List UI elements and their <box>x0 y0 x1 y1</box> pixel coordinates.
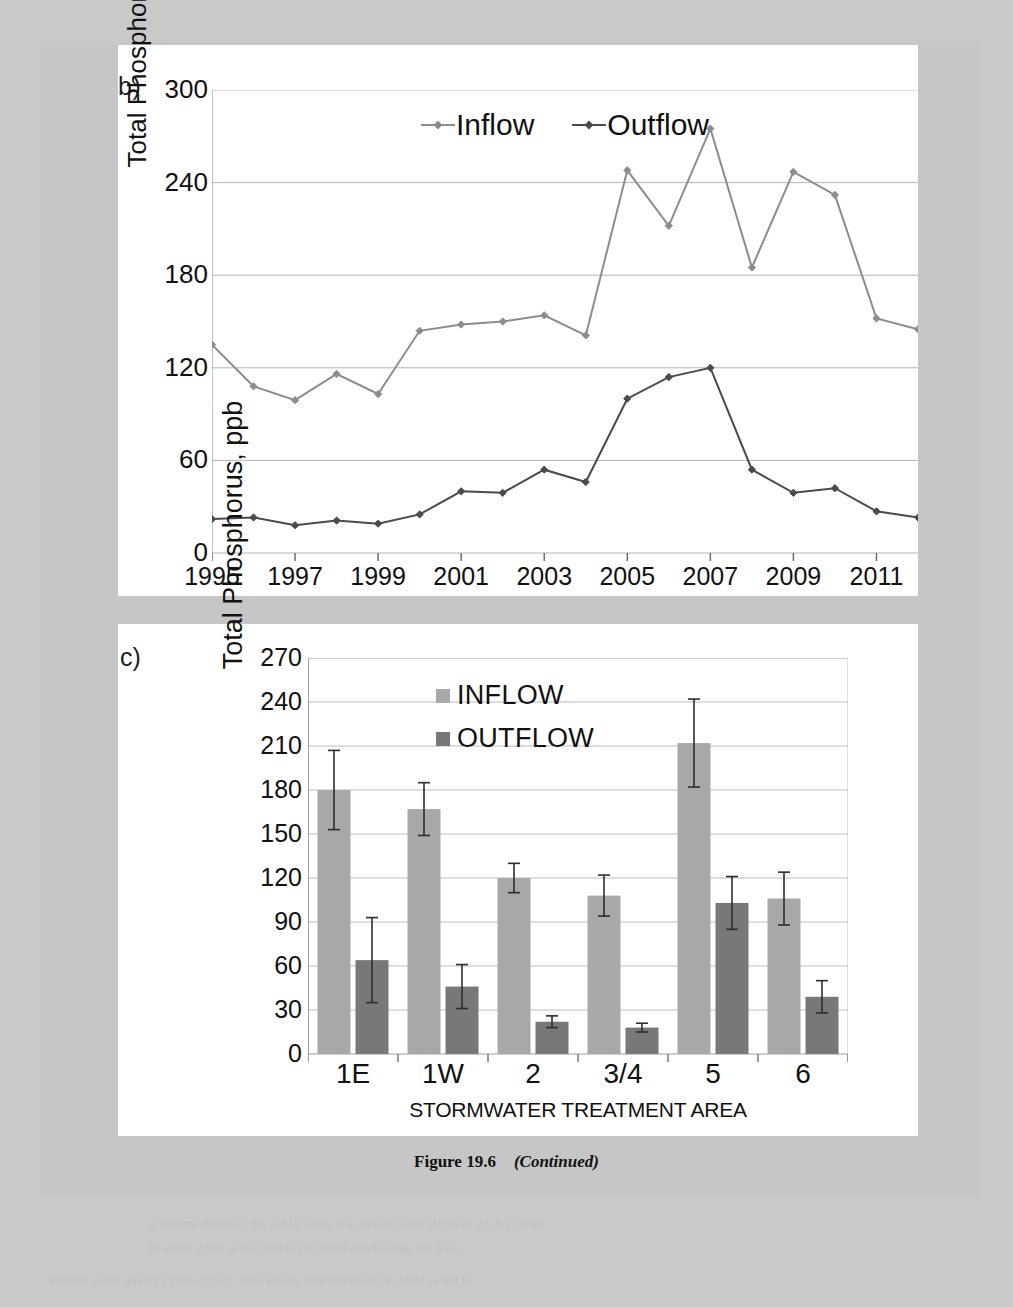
y-tick-label: 60 <box>138 446 208 472</box>
series-marker <box>707 364 714 371</box>
series-marker <box>873 315 880 322</box>
legend-label: OUTFLOW <box>457 723 594 754</box>
x-tick-label: 2007 <box>683 562 739 591</box>
caption-continued: (Continued) <box>514 1152 599 1171</box>
series-marker <box>458 321 465 328</box>
x-tick-label: 1W <box>422 1058 464 1090</box>
panel-c-y-ticks: 0306090120150180210240270 <box>232 0 302 512</box>
y-tick-label: 150 <box>232 821 302 846</box>
legend-label: Inflow <box>456 108 534 142</box>
series-marker <box>914 326 918 333</box>
x-tick-label: 2 <box>525 1058 541 1090</box>
y-tick-label: 0 <box>232 1041 302 1066</box>
bar-chart-legend: INFLOWOUTFLOW <box>436 680 594 754</box>
x-tick-label: 3/4 <box>604 1058 643 1090</box>
y-tick-label: 240 <box>232 689 302 714</box>
series-marker <box>291 522 298 529</box>
line-chart-legend: InflowOutflow <box>212 108 918 142</box>
series-marker <box>499 318 506 325</box>
y-tick-label: 300 <box>138 76 208 102</box>
legend-label: INFLOW <box>457 680 564 711</box>
y-tick-label: 90 <box>232 909 302 934</box>
x-tick-label: 2001 <box>433 562 489 591</box>
page-background: b) Total Phosphorus, ppb 060120180240300… <box>0 0 1013 1307</box>
y-tick-label: 180 <box>138 261 208 287</box>
y-tick-label: 120 <box>232 865 302 890</box>
series-marker <box>212 515 216 522</box>
x-tick-label: 5 <box>705 1058 721 1090</box>
bleed-line-1: a vertical distance; the actual value is… <box>150 1216 545 1232</box>
y-tick-label: 30 <box>232 997 302 1022</box>
bar-inflow-1W <box>408 809 441 1054</box>
x-tick-label: 2011 <box>850 562 904 591</box>
panel-c-x-axis-label: STORMWATER TREATMENT AREA <box>308 1098 848 1122</box>
legend-label: Outflow <box>607 108 709 142</box>
y-tick-label: 240 <box>138 169 208 195</box>
bar-inflow-3-4 <box>588 896 621 1054</box>
series-marker <box>582 332 589 339</box>
y-tick-label: 270 <box>232 645 302 670</box>
legend-swatch-icon <box>436 732 450 746</box>
legend-marker-icon <box>421 118 455 132</box>
series-marker <box>624 395 631 402</box>
caption-figure-number: Figure 19.6 <box>414 1152 496 1171</box>
series-marker <box>333 517 340 524</box>
y-tick-label: 210 <box>232 733 302 758</box>
x-tick-label: 1997 <box>267 562 323 591</box>
line-chart-svg <box>212 90 918 565</box>
panel-b-x-ticks: 199519971999200120032005200720092011 <box>212 562 918 596</box>
series-line-inflow <box>212 129 918 401</box>
series-marker <box>541 312 548 319</box>
x-tick-label: 1E <box>336 1058 370 1090</box>
panel-c-plot-area: INFLOWOUTFLOW <box>308 658 848 1054</box>
series-marker <box>665 373 672 380</box>
y-tick-label: 180 <box>232 777 302 802</box>
series-line-outflow <box>212 368 918 525</box>
bar-inflow-2 <box>498 878 531 1054</box>
x-tick-label: 2005 <box>599 562 655 591</box>
x-tick-label: 2009 <box>766 562 822 591</box>
series-marker <box>582 478 589 485</box>
series-marker <box>375 520 382 527</box>
bleed-line-2: to about 2,000 acres (809 ha) to avoid o… <box>150 1240 458 1256</box>
legend-marker-icon <box>572 118 606 132</box>
bleed-line-3: influent water quality (1995–2012). Tota… <box>48 1272 472 1288</box>
panel-b-y-ticks: 060120180240300 <box>138 0 208 551</box>
x-tick-label: 6 <box>795 1058 811 1090</box>
series-marker <box>250 514 257 521</box>
y-tick-label: 60 <box>232 953 302 978</box>
legend-item-outflow[interactable]: OUTFLOW <box>436 723 594 754</box>
panel-c-label: c) <box>120 643 141 672</box>
panel-c-x-ticks: 1E1W23/456 <box>308 1058 848 1094</box>
legend-item-inflow[interactable]: INFLOW <box>436 680 594 711</box>
figure-caption: Figure 19.6(Continued) <box>0 1152 1013 1172</box>
bar-inflow-5 <box>678 743 711 1054</box>
series-marker <box>914 514 918 521</box>
panel-b-plot-area: InflowOutflow <box>212 90 918 553</box>
legend-item-inflow[interactable]: Inflow <box>421 108 534 142</box>
legend-item-outflow[interactable]: Outflow <box>572 108 709 142</box>
y-tick-label: 120 <box>138 354 208 380</box>
legend-swatch-icon <box>436 689 450 703</box>
x-tick-label: 1999 <box>350 562 406 591</box>
x-tick-label: 2003 <box>516 562 572 591</box>
series-marker <box>748 264 755 271</box>
